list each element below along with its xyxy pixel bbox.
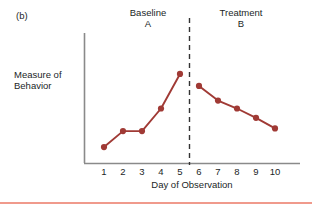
x-tick-label: 2 [115,166,131,177]
x-tick-label: 6 [191,166,207,177]
x-tick-label: 7 [210,166,226,177]
series-line [104,74,180,147]
x-tick-label: 8 [229,166,245,177]
x-tick-label: 9 [248,166,264,177]
x-tick-label: 4 [153,166,169,177]
x-tick-label: 3 [134,166,150,177]
data-point-marker [158,105,164,111]
data-point-marker [253,115,259,121]
data-point-marker [196,83,202,89]
data-point-marker [215,97,221,103]
x-tick-label: 5 [172,166,188,177]
data-point-marker [101,144,107,150]
data-point-marker [120,128,126,134]
x-tick-label: 10 [267,166,283,177]
figure-panel: (b) Baseline A Treatment B Measure of Be… [0,0,312,208]
data-point-marker [234,105,240,111]
data-point-marker [139,128,145,134]
x-tick-label: 1 [96,166,112,177]
data-point-marker [272,125,278,131]
bottom-rule [0,202,312,204]
data-point-marker [177,71,183,77]
